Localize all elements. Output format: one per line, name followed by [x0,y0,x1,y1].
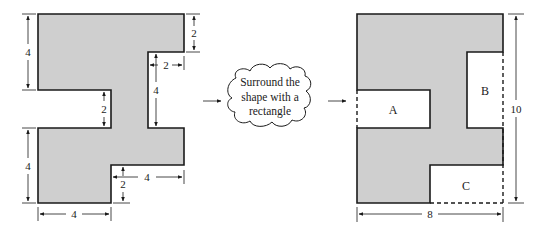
region-b-label: B [481,84,489,98]
dim-label: 4 [144,171,150,183]
right-figure: A B C 10 8 [357,14,524,222]
cloud-text-line-3: rectangle [249,105,291,118]
dim-label: 4 [153,84,159,96]
cloud-text-line-1: Surround the [240,76,300,88]
dim-label: 8 [427,208,433,220]
composite-shape [357,14,503,203]
dim-label: 2 [191,27,197,39]
dim-label: 2 [120,178,126,190]
dim-label: 2 [101,103,107,115]
region-a-label: A [389,103,398,117]
dim-label: 4 [25,46,31,58]
left-figure: 4 2 2 4 2 [22,14,200,221]
cloud-text-line-2: shape with a [241,91,298,104]
dim-label: 2 [163,59,169,71]
region-c-label: C [462,179,470,193]
cloud-callout: Surround the shape with a rectangle [228,64,311,127]
dim-label: 4 [71,208,77,220]
diagram-canvas: 4 2 2 4 2 [0,0,544,231]
composite-shape [38,14,184,203]
dim-label: 4 [25,160,31,172]
dim-label: 10 [511,103,523,115]
